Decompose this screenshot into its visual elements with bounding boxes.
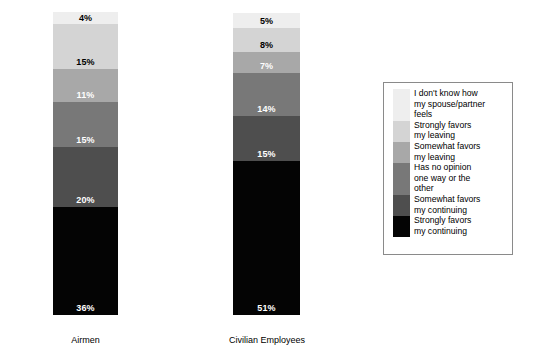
legend-item[interactable]: Strongly favors my continuing [393, 216, 509, 237]
legend: I don't know how my spouse/partner feels… [383, 82, 513, 255]
legend-item-label: Somewhat favors my leaving [414, 141, 510, 162]
bar-segment [53, 207, 118, 315]
bar-group-airmen: 4%15%11%15%20%36% [53, 12, 118, 315]
bar-segment-value-label: 15% [53, 135, 118, 145]
bar-segment-value-label: 15% [233, 149, 300, 159]
bar-segment [233, 161, 300, 315]
bar-segment-value-label: 51% [233, 303, 300, 313]
legend-item-label: Has no opinion one way or the other [414, 162, 510, 194]
legend-swatch-icon [393, 121, 410, 142]
bar-group-civilian-employees: 5%8%7%14%15%51% [233, 13, 300, 315]
legend-swatch-icon [393, 163, 410, 195]
bar-segment-value-label: 14% [233, 104, 300, 114]
legend-item-label: Strongly favors my continuing [414, 215, 510, 236]
bar-segment-value-label: 5% [233, 16, 300, 26]
bar-stack: 5%8%7%14%15%51% [233, 13, 300, 315]
legend-item[interactable]: I don't know how my spouse/partner feels [393, 89, 509, 121]
category-label-airmen: Airmen [43, 335, 128, 346]
legend-items: I don't know how my spouse/partner feels… [393, 89, 509, 249]
category-label-civilian-employees: Civilian Employees [221, 335, 313, 346]
legend-swatch-icon [393, 89, 410, 121]
legend-item[interactable]: Strongly favors my leaving [393, 121, 509, 142]
stacked-bar-chart: 4%15%11%15%20%36% 5%8%7%14%15%51% Airmen… [0, 0, 535, 361]
bar-segment-value-label: 8% [233, 40, 300, 50]
legend-item-label: Strongly favors my leaving [414, 120, 510, 141]
legend-swatch-icon [393, 216, 410, 237]
legend-swatch-icon [393, 195, 410, 216]
legend-item-label: I don't know how my spouse/partner feels [414, 88, 510, 120]
bar-segment-value-label: 11% [53, 90, 118, 100]
bar-segment-value-label: 15% [53, 57, 118, 67]
legend-item[interactable]: Somewhat favors my continuing [393, 195, 509, 216]
bar-segment-value-label: 4% [53, 13, 118, 23]
legend-swatch-icon [393, 142, 410, 163]
legend-item[interactable]: Somewhat favors my leaving [393, 142, 509, 163]
legend-item-label: Somewhat favors my continuing [414, 194, 510, 215]
bar-segment-value-label: 36% [53, 303, 118, 313]
legend-item[interactable]: Has no opinion one way or the other [393, 163, 509, 195]
bar-segment-value-label: 7% [233, 61, 300, 71]
bar-segment-value-label: 20% [53, 195, 118, 205]
bar-stack: 4%15%11%15%20%36% [53, 12, 118, 315]
